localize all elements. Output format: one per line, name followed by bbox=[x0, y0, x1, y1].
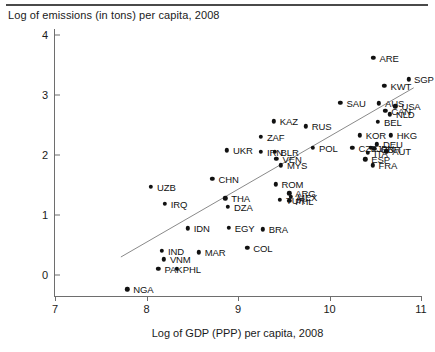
y-tick-mark bbox=[55, 95, 60, 96]
data-point bbox=[338, 101, 342, 105]
data-point-label: NGA bbox=[133, 284, 153, 295]
data-point bbox=[156, 267, 160, 271]
x-tick-label: 8 bbox=[143, 303, 149, 315]
data-point bbox=[225, 148, 229, 152]
y-tick-label: 3 bbox=[42, 89, 48, 101]
plot-area: 012347891011ARESGPKWTAUSUSACANNLDSAUBELH… bbox=[54, 29, 421, 297]
data-point-label: MYS bbox=[287, 160, 307, 171]
data-point bbox=[383, 108, 387, 112]
chart-title: Log of emissions (in tons) per capita, 2… bbox=[8, 9, 220, 21]
x-tick-mark bbox=[421, 296, 422, 301]
x-tick-mark bbox=[55, 296, 56, 301]
data-point-label: IRQ bbox=[171, 198, 188, 209]
data-point bbox=[163, 201, 167, 205]
data-point bbox=[259, 135, 263, 139]
data-point-label: SGP bbox=[414, 74, 434, 85]
data-point-label: RUS bbox=[312, 121, 332, 132]
y-tick-mark bbox=[55, 155, 60, 156]
data-point bbox=[377, 101, 381, 105]
data-point-label: MAR bbox=[205, 247, 226, 258]
data-point-label: BEL bbox=[384, 117, 402, 128]
data-point-label: DZA bbox=[234, 201, 253, 212]
data-point bbox=[223, 196, 227, 200]
data-point bbox=[210, 177, 214, 181]
data-point-label: CHN bbox=[218, 174, 238, 185]
data-point bbox=[149, 185, 153, 189]
x-tick-label: 7 bbox=[52, 303, 58, 315]
data-point-label: COL bbox=[253, 243, 272, 254]
data-point bbox=[371, 56, 375, 60]
data-point bbox=[350, 146, 354, 150]
data-point bbox=[370, 163, 374, 167]
data-point bbox=[271, 119, 275, 123]
data-point bbox=[185, 226, 189, 230]
data-point-label: PHL bbox=[183, 264, 201, 275]
data-point bbox=[376, 120, 380, 124]
data-point-label: KWT bbox=[390, 81, 411, 92]
data-point-label: UKR bbox=[233, 145, 253, 156]
y-tick-label: 1 bbox=[42, 209, 48, 221]
x-tick-label: 10 bbox=[323, 303, 335, 315]
data-point-label: POL bbox=[319, 142, 338, 153]
data-point-label: ARE bbox=[379, 52, 398, 63]
trendline bbox=[55, 29, 421, 296]
data-point-label: SAU bbox=[346, 97, 365, 108]
y-tick-mark bbox=[55, 35, 60, 36]
y-tick-label: 2 bbox=[42, 149, 48, 161]
data-point bbox=[261, 227, 265, 231]
data-point bbox=[382, 84, 386, 88]
data-point-label: FRA bbox=[379, 160, 398, 171]
x-tick-label: 9 bbox=[235, 303, 241, 315]
data-point bbox=[363, 157, 367, 161]
data-point-label: EGY bbox=[235, 222, 255, 233]
y-tick-label: 4 bbox=[42, 29, 48, 41]
data-point-label: KAZ bbox=[280, 116, 298, 127]
x-tick-mark bbox=[330, 296, 331, 301]
data-point-label: IDN bbox=[194, 223, 210, 234]
data-point-label: BRA bbox=[269, 224, 288, 235]
x-tick-label: 11 bbox=[415, 303, 426, 315]
y-tick-mark bbox=[55, 275, 60, 276]
data-point bbox=[227, 225, 231, 229]
data-point-label: PHL bbox=[295, 195, 313, 206]
data-point bbox=[226, 204, 230, 208]
data-point bbox=[278, 198, 282, 202]
data-point-label: ZAF bbox=[267, 132, 285, 143]
data-point bbox=[304, 124, 308, 128]
y-tick-label: 0 bbox=[42, 269, 48, 281]
data-point bbox=[366, 150, 370, 154]
data-point bbox=[160, 249, 164, 253]
data-point bbox=[274, 156, 278, 160]
data-point bbox=[259, 150, 263, 154]
data-point bbox=[162, 257, 166, 261]
x-tick-mark bbox=[238, 296, 239, 301]
data-point bbox=[357, 133, 361, 137]
data-point bbox=[125, 287, 129, 291]
x-axis-label: Log of GDP (PPP) per capita, 2008 bbox=[54, 327, 421, 339]
data-point-label: UZB bbox=[157, 181, 176, 192]
data-point bbox=[389, 133, 393, 137]
data-point bbox=[196, 250, 200, 254]
data-point bbox=[273, 182, 277, 186]
data-point bbox=[279, 163, 283, 167]
x-tick-mark bbox=[147, 296, 148, 301]
chart-figure: Log of emissions (in tons) per capita, 2… bbox=[0, 0, 435, 352]
data-point-label: PAK bbox=[164, 264, 182, 275]
data-point bbox=[245, 246, 249, 250]
data-point bbox=[311, 146, 315, 150]
header-rule bbox=[6, 4, 428, 6]
y-tick-mark bbox=[55, 215, 60, 216]
